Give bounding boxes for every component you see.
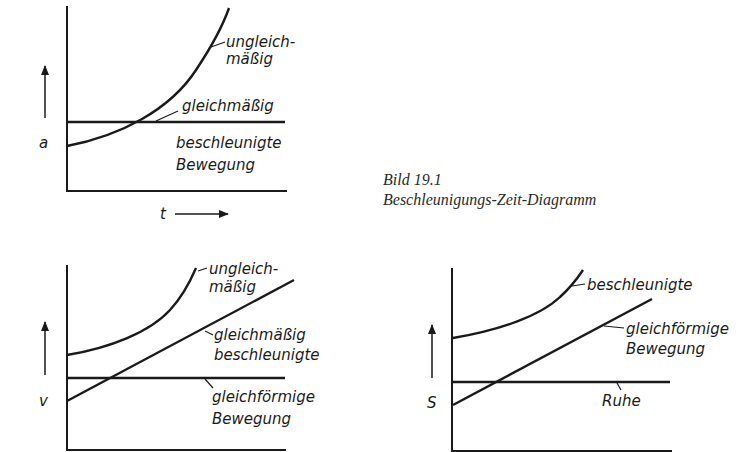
- figure-title: Beschleunigungs-Zeit-Diagramm: [383, 190, 596, 210]
- figure-number: Bild 19.1: [383, 170, 596, 190]
- diagram-canvas: a t ungleich- mäßig gleichmäßig beschleu…: [0, 0, 755, 452]
- leader-line: [572, 284, 585, 286]
- flat-label: gleichförmige: [212, 388, 315, 406]
- leader-line: [156, 111, 178, 121]
- uniform-motion-line: [453, 299, 652, 405]
- nonuniform-acceleration-curve: [67, 8, 229, 146]
- curve-label: mäßig: [226, 50, 273, 68]
- leader-line: [604, 326, 624, 328]
- curve-label: mäßig: [209, 278, 256, 296]
- y-axis-label: a: [39, 134, 48, 152]
- motion-label: beschleunigte: [176, 134, 282, 152]
- line-label: gleichmäßig: [182, 97, 274, 115]
- leader-line: [205, 379, 213, 388]
- accelerated-motion-curve: [453, 270, 583, 338]
- curve-label: beschleunigte: [587, 276, 693, 294]
- leader-line: [205, 331, 213, 335]
- motion-label: Bewegung: [176, 156, 255, 174]
- y-axis-label: v: [39, 392, 49, 410]
- distance-time-diagram: [432, 268, 672, 452]
- leader-line: [617, 383, 621, 390]
- slope-label: gleichförmige: [626, 320, 729, 338]
- flat-label: Bewegung: [212, 410, 291, 428]
- x-axis-label: t: [160, 205, 167, 223]
- slope-label: Bewegung: [626, 340, 705, 358]
- slope-label: beschleunigte: [214, 346, 320, 364]
- curve-label: ungleich-: [209, 260, 278, 278]
- flat-label: Ruhe: [602, 392, 641, 410]
- curve-label: ungleich-: [226, 33, 295, 51]
- slope-label: gleichmäßig: [214, 326, 306, 344]
- leader-line: [198, 268, 207, 271]
- figure-caption: Bild 19.1 Beschleunigungs-Zeit-Diagramm: [383, 170, 596, 210]
- y-axis-label: S: [427, 394, 437, 412]
